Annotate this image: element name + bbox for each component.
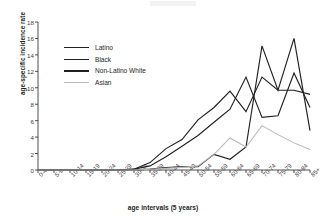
plot-area <box>0 0 326 223</box>
legend-swatch-icon <box>64 47 89 48</box>
line-chart: age-specific incidence rate age interval… <box>0 0 326 223</box>
legend-item: Asian <box>64 77 146 89</box>
legend-item-label: Asian <box>95 79 112 86</box>
legend-item: Latino <box>64 42 146 54</box>
legend-item-label: Non-Latino White <box>95 67 146 74</box>
legend-swatch-icon <box>64 59 89 60</box>
legend-item: Black <box>64 54 146 66</box>
series-line <box>38 126 310 170</box>
series-line <box>38 77 310 170</box>
legend-item-label: Black <box>95 56 111 63</box>
legend-swatch-icon <box>64 82 89 83</box>
legend-swatch-icon <box>64 70 89 72</box>
legend-item-label: Latino <box>95 44 113 51</box>
chart-legend: LatinoBlackNon-Latino WhiteAsian <box>64 42 146 88</box>
legend-item: Non-Latino White <box>64 65 146 77</box>
